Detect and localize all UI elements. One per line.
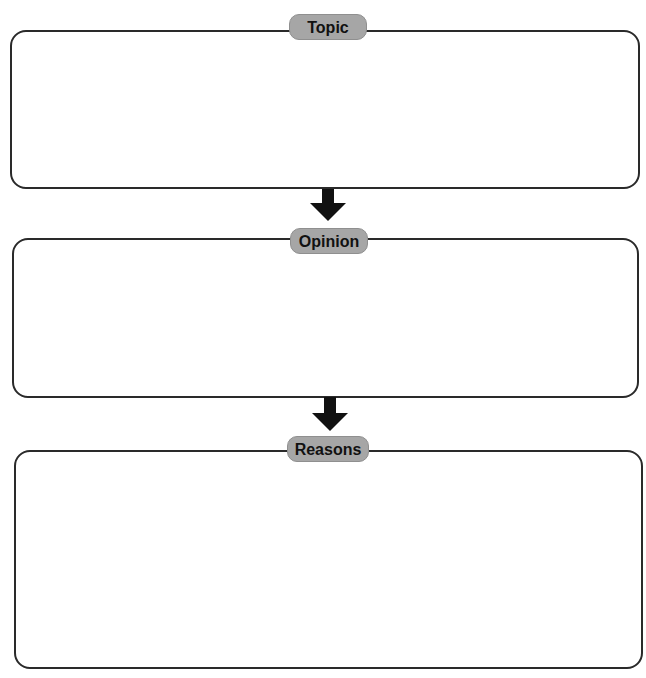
topic-box xyxy=(10,30,640,189)
reasons-box xyxy=(14,450,643,669)
arrow-down-icon xyxy=(310,397,350,433)
reasons-label: Reasons xyxy=(287,436,369,462)
arrow-down-icon xyxy=(308,189,348,223)
opinion-label: Opinion xyxy=(290,228,368,254)
topic-label: Topic xyxy=(289,14,367,40)
opinion-box xyxy=(12,238,639,398)
